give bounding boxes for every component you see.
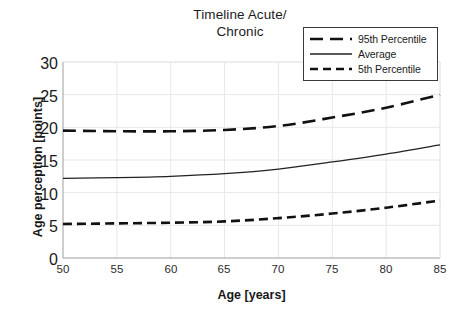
legend-item-5th-percentile[interactable]: 5th Percentile xyxy=(308,61,433,76)
chart-figure: Timeline Acute/ Chronic Age perception [… xyxy=(0,0,468,319)
series-line-average xyxy=(63,145,440,178)
legend[interactable]: 95th Percentile Average 5th Percentile xyxy=(303,27,438,81)
series-line-95th-percentile xyxy=(63,95,440,132)
series-line-5th-percentile xyxy=(63,201,440,225)
legend-label-95th-percentile: 95th Percentile xyxy=(354,33,427,45)
legend-label-average: Average xyxy=(354,48,396,60)
legend-item-95th-percentile[interactable]: 95th Percentile xyxy=(308,31,433,46)
legend-item-average[interactable]: Average xyxy=(308,46,433,61)
legend-swatch-dashed-short-icon xyxy=(308,63,354,75)
legend-swatch-dashed-long-icon xyxy=(308,33,354,45)
gridlines xyxy=(63,62,440,258)
legend-label-5th-percentile: 5th Percentile xyxy=(354,63,421,75)
legend-swatch-solid-icon xyxy=(308,48,354,60)
series-lines xyxy=(63,95,440,224)
